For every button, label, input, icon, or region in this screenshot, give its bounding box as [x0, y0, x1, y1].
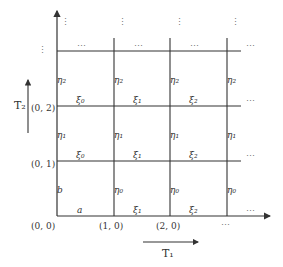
lattice-diagram: T₂ T₁ (0, 0) (1, 0) (2, 0) ⋯ (0, 1) (0, …	[0, 0, 283, 267]
edge-row2-xi0: ξ₀	[76, 96, 85, 105]
top-dots-col1: ⋮	[118, 18, 127, 27]
edge-col0-eta2: η₂	[57, 76, 66, 85]
coord-1-0: (1, 0)	[99, 222, 123, 231]
coord-y-more: ⋮	[38, 46, 47, 55]
edge-col3-eta1: η₁	[227, 131, 236, 140]
row3-dots-1: ⋯	[77, 42, 86, 51]
edge-row0-more: ⋯	[246, 207, 255, 216]
edge-row2-more: ⋯	[246, 97, 255, 106]
coord-x-more: ⋯	[221, 221, 230, 230]
edge-row0-xi1: ξ₁	[133, 206, 142, 215]
edge-row1-xi1: ξ₁	[133, 151, 142, 160]
edge-row1-more: ⋯	[246, 152, 255, 161]
edge-col3-eta2: η₂	[227, 76, 236, 85]
edge-row0-a: a	[77, 206, 82, 215]
edge-col2-eta2: η₂	[170, 76, 179, 85]
t1-label: T₁	[162, 248, 174, 259]
top-dots-col0: ⋮	[61, 18, 70, 27]
row3-dots-3: ⋯	[190, 42, 199, 51]
edge-col2-eta1: η₁	[170, 131, 179, 140]
edge-row1-xi2: ξ₂	[189, 151, 198, 160]
coord-2-0: (2, 0)	[156, 222, 180, 231]
edge-row2-xi1: ξ₁	[133, 96, 142, 105]
edge-col1-eta2: η₂	[114, 76, 123, 85]
t2-label: T₂	[14, 100, 26, 111]
edge-col0-eta1: η₁	[57, 131, 66, 140]
row3-dots-4: ⋯	[246, 42, 255, 51]
edge-row2-xi2: ξ₂	[189, 96, 198, 105]
top-dots-col2: ⋮	[175, 18, 184, 27]
edge-col1-eta1: η₁	[114, 131, 123, 140]
row3-dots-2: ⋯	[134, 42, 143, 51]
coord-0-1: (0, 1)	[31, 160, 55, 169]
edge-col2-eta0: η₀	[170, 186, 179, 195]
edge-col1-eta0: η₀	[114, 186, 123, 195]
top-dots-col3: ⋮	[231, 18, 240, 27]
edge-col3-eta0: η₀	[227, 186, 236, 195]
edge-row0-xi2: ξ₂	[189, 206, 198, 215]
edge-row1-xi0: ξ₀	[76, 151, 85, 160]
coord-0-2: (0, 2)	[31, 104, 55, 113]
coord-origin: (0, 0)	[31, 222, 55, 231]
edge-col0-b: b	[57, 186, 63, 195]
